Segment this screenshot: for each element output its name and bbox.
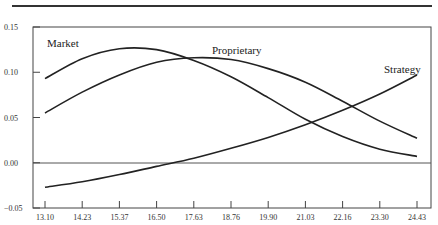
x-tick-label: 13.10 <box>36 213 54 222</box>
y-axis: 0.150.100.050.00−0.05 <box>4 23 40 213</box>
x-tick-label: 15.37 <box>110 213 128 222</box>
series-label-market: Market <box>47 37 79 49</box>
x-tick-label: 14.23 <box>73 213 91 222</box>
series-label-strategy: Strategy <box>384 63 421 75</box>
y-tick-label: 0.10 <box>4 68 18 77</box>
x-tick-label: 16.50 <box>148 213 166 222</box>
x-tick-label: 18.76 <box>222 213 240 222</box>
x-tick-label: 22.16 <box>334 213 352 222</box>
x-axis: 13.1014.2315.3716.5017.6318.7619.9021.03… <box>36 201 426 222</box>
line-chart: 0.150.100.050.00−0.05 13.1014.2315.3716.… <box>0 0 438 225</box>
y-tick-label: 0.05 <box>4 114 18 123</box>
x-tick-label: 23.30 <box>371 213 389 222</box>
x-tick-label: 19.90 <box>259 213 277 222</box>
series-label-proprietary: Proprietary <box>212 44 262 56</box>
y-tick-label: −0.05 <box>4 204 23 213</box>
series-line-proprietary <box>45 58 417 139</box>
series-curves <box>45 48 417 187</box>
y-tick-label: 0.00 <box>4 159 18 168</box>
y-tick-label: 0.15 <box>4 23 18 32</box>
x-tick-label: 17.63 <box>185 213 203 222</box>
series-line-strategy <box>45 75 417 187</box>
x-tick-label: 21.03 <box>296 213 314 222</box>
x-tick-label: 24.43 <box>408 213 426 222</box>
